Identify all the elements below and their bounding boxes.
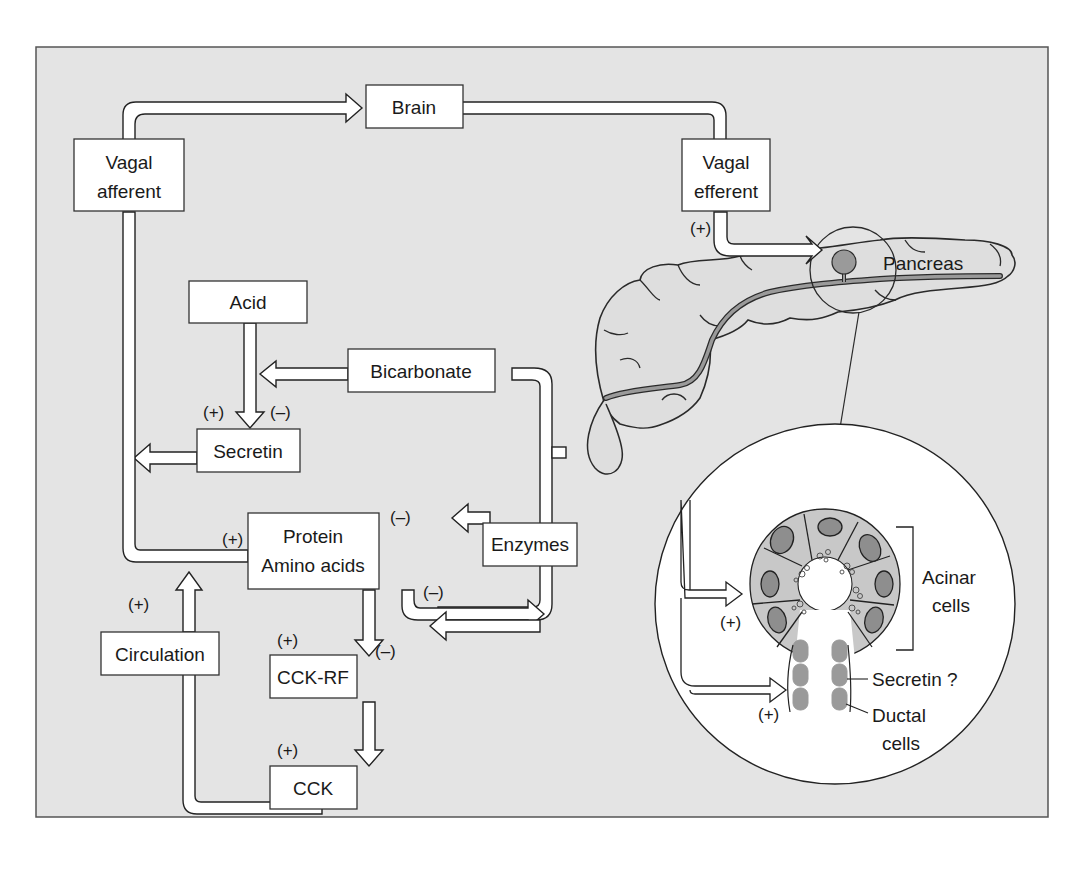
enzymes-label: Enzymes [491, 534, 569, 555]
vagal-afferent-label-2: afferent [97, 181, 162, 202]
ductal-label-2: cells [882, 733, 920, 754]
sign-protein-vagal: (+) [222, 530, 243, 549]
secretin-question-label: Secretin ? [872, 669, 958, 690]
cck-rf-label: CCK-RF [277, 667, 349, 688]
sign-circulation: (+) [128, 595, 149, 614]
brain-label: Brain [392, 97, 436, 118]
vagal-afferent-label-1: Vagal [105, 152, 152, 173]
bicarbonate-label: Bicarbonate [370, 361, 471, 382]
acid-label: Acid [230, 292, 267, 313]
protein-label-1: Protein [283, 526, 343, 547]
sign-cckrf-cck: (+) [277, 741, 298, 760]
ductal-label-1: Ductal [872, 705, 926, 726]
circulation-label: Circulation [115, 644, 205, 665]
sign-protein-cckrf: (+) [277, 631, 298, 650]
sign-inset-acinar: (+) [720, 613, 741, 632]
cck-label: CCK [293, 778, 333, 799]
pancreas-label: Pancreas [883, 253, 963, 274]
pancreatic-regulation-diagram: Pancreas [0, 0, 1085, 879]
sign-protein-enzymes: (–) [423, 583, 444, 602]
acinar-ring [750, 509, 900, 660]
sign-enzymes-protein: (–) [390, 508, 411, 527]
protein-label-2: Amino acids [261, 555, 365, 576]
sign-acid: (+) [203, 403, 224, 422]
acinar-label-2: cells [932, 595, 970, 616]
sign-enzymes-cckrf: (–) [375, 642, 396, 661]
vagal-efferent-label-1: Vagal [702, 152, 749, 173]
secretin-label: Secretin [213, 441, 283, 462]
acinus-inset: Acinar cells Secretin ? Ductal cells (+)… [655, 424, 1015, 784]
box-protein [248, 513, 379, 589]
acinar-label-1: Acinar [922, 567, 977, 588]
vagal-efferent-label-2: efferent [694, 181, 759, 202]
sign-bicarbonate: (–) [270, 403, 291, 422]
sign-inset-ductal: (+) [758, 705, 779, 724]
sign-vagal-efferent: (+) [690, 219, 711, 238]
